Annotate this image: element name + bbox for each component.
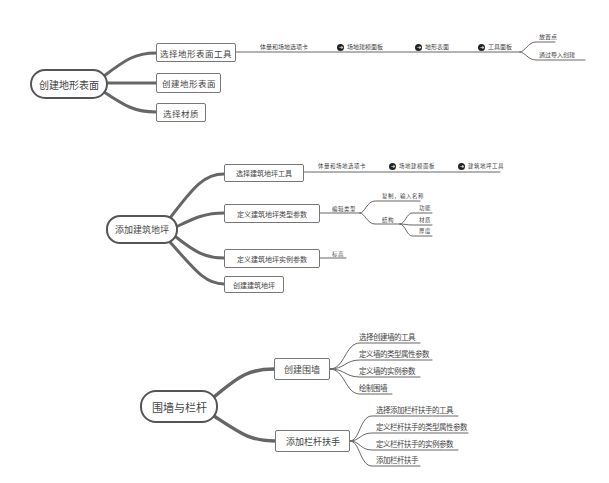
thickness-label: 厚度 xyxy=(419,227,431,235)
material-label: 材质 xyxy=(419,216,431,224)
leaf-railing-instance-params: 定义栏杆扶手的实例参数 xyxy=(376,440,453,449)
node-label: 选择地形表面工具 xyxy=(160,47,232,59)
branch-label: 结构 xyxy=(382,217,394,223)
leaf-draw-fence: 绘制围墙 xyxy=(359,384,387,393)
path-step-label: 场地建模面板 xyxy=(347,43,383,50)
root-label: 创建地形表面 xyxy=(39,77,99,92)
node-label: 创建围墙 xyxy=(284,363,320,376)
function-label: 功能 xyxy=(419,204,431,212)
leaf-select-wall-tool: 选择创建墙的工具 xyxy=(359,333,415,342)
node-label: 选择建筑地坪工具 xyxy=(236,168,292,178)
node-create-pad[interactable]: 创建建筑地坪 xyxy=(224,276,284,293)
leaf-label: 绘制围墙 xyxy=(359,384,387,393)
path-step-label: 地形表面 xyxy=(425,43,449,50)
node-label: 创建地形表面 xyxy=(162,77,216,89)
leaf-import-create: 通过导入创建 xyxy=(539,51,575,59)
leaf-label: 添加栏杆扶手 xyxy=(376,456,418,465)
leaf-label: 材质 xyxy=(419,217,431,223)
node-label: 定义建筑地坪实例参数 xyxy=(237,254,307,264)
node-create-fence[interactable]: 创建围墙 xyxy=(274,358,330,380)
mindmap-root-fence-railing[interactable]: 围墙与栏杆 xyxy=(140,390,218,423)
structure-label: 结构 xyxy=(382,216,394,224)
path-step-label: 工具面板 xyxy=(488,43,512,50)
leaf-label: 选择添加栏杆扶手的工具 xyxy=(376,406,453,415)
path-step-label: 建筑地坪工具 xyxy=(468,163,504,169)
node-label: 定义建筑地坪类型参数 xyxy=(237,209,307,219)
leaf-railing-type-params: 定义栏杆扶手的类型属性参数 xyxy=(376,423,467,432)
path-step-4: ➜工具面板 xyxy=(478,43,512,51)
branch-label: 编辑类型 xyxy=(332,206,356,212)
node-label: 选择材质 xyxy=(163,107,199,119)
copy-name-label: 复制，输入名称 xyxy=(382,192,424,200)
leaf-label: 定义墙的实例参数 xyxy=(359,367,415,376)
leaf-wall-instance-params: 定义墙的实例参数 xyxy=(359,367,415,376)
path-step-1: 体量和场地选项卡 xyxy=(318,162,366,170)
level-label: 标高 xyxy=(332,250,344,258)
node-add-railing[interactable]: 添加栏杆扶手 xyxy=(275,430,350,452)
root-label: 围墙与栏杆 xyxy=(152,399,207,415)
leaf-label: 定义栏杆扶手的实例参数 xyxy=(376,440,453,449)
node-define-pad-type[interactable]: 定义建筑地坪类型参数 xyxy=(224,204,320,223)
leaf-label: 定义墙的类型属性参数 xyxy=(359,350,429,359)
leaf-wall-type-params: 定义墙的类型属性参数 xyxy=(359,350,429,359)
path-step-3: ➜建筑地坪工具 xyxy=(458,162,504,170)
edit-type-label: 编辑类型 xyxy=(332,205,356,213)
leaf-label: 厚度 xyxy=(419,228,431,234)
mindmap-root-terrain[interactable]: 创建地形表面 xyxy=(30,69,108,99)
path-step-3: ➜地形表面 xyxy=(415,43,449,51)
path-step-label: 体量和场地选项卡 xyxy=(318,163,366,169)
leaf-label: 功能 xyxy=(419,205,431,211)
branch-label: 标高 xyxy=(332,251,344,257)
leaf-select-railing-tool: 选择添加栏杆扶手的工具 xyxy=(376,406,453,415)
node-label: 添加栏杆扶手 xyxy=(286,435,340,448)
arrow-right-circle-icon: ➜ xyxy=(337,44,344,51)
node-select-terrain-tool[interactable]: 选择地形表面工具 xyxy=(156,43,236,62)
node-label: 创建建筑地坪 xyxy=(233,280,275,290)
path-step-label: 场地建模面板 xyxy=(399,163,435,169)
arrow-right-circle-icon: ➜ xyxy=(478,44,485,51)
path-step-2: ➜场地建模面板 xyxy=(337,43,383,51)
leaf-place-point: 放置点 xyxy=(539,33,557,41)
arrow-right-circle-icon: ➜ xyxy=(415,44,422,51)
leaf-label: 通过导入创建 xyxy=(539,51,575,58)
node-create-terrain[interactable]: 创建地形表面 xyxy=(156,73,221,93)
arrow-right-circle-icon: ➜ xyxy=(458,163,465,170)
path-step-1: 体量和场地选项卡 xyxy=(260,43,308,51)
path-step-label: 体量和场地选项卡 xyxy=(260,43,308,50)
branch-label: 复制，输入名称 xyxy=(382,193,424,199)
leaf-label: 定义栏杆扶手的类型属性参数 xyxy=(376,423,467,432)
node-select-pad-tool[interactable]: 选择建筑地坪工具 xyxy=(224,164,304,182)
mindmap-root-building-pad[interactable]: 添加建筑地坪 xyxy=(106,215,178,244)
leaf-label: 选择创建墙的工具 xyxy=(359,333,415,342)
leaf-add-railing: 添加栏杆扶手 xyxy=(376,456,418,465)
arrow-right-circle-icon: ➜ xyxy=(389,163,396,170)
node-define-pad-instance[interactable]: 定义建筑地坪实例参数 xyxy=(224,249,320,268)
leaf-label: 放置点 xyxy=(539,33,557,40)
root-label: 添加建筑地坪 xyxy=(115,223,169,236)
path-step-2: ➜场地建模面板 xyxy=(389,162,435,170)
node-select-material[interactable]: 选择材质 xyxy=(156,103,206,122)
